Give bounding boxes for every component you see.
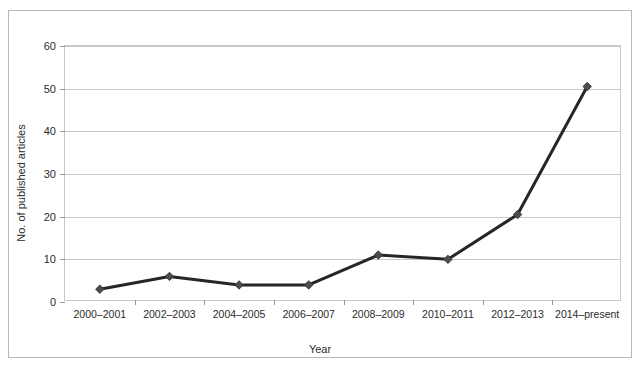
x-tick-label: 2010–2011 bbox=[422, 309, 474, 320]
x-tick-label: 2006–2007 bbox=[282, 309, 335, 320]
y-tick-label: 10 bbox=[44, 254, 56, 265]
x-tick-label: 2000–2001 bbox=[74, 309, 127, 320]
x-tick-label: 2002–2003 bbox=[143, 309, 196, 320]
y-tick-label: 40 bbox=[44, 126, 56, 137]
x-tick-label: 2014–present bbox=[555, 309, 619, 320]
y-axis-title: No. of published articles bbox=[15, 124, 27, 241]
y-tick-label: 60 bbox=[44, 41, 56, 52]
series-line-chart bbox=[65, 46, 622, 302]
plot-area: 0102030405060 2000–20012002–20032004–200… bbox=[64, 45, 621, 301]
x-tick-label: 2012–2013 bbox=[491, 309, 544, 320]
x-tick-label: 2004–2005 bbox=[213, 309, 266, 320]
series-line bbox=[100, 87, 587, 290]
x-axis-title: Year bbox=[9, 343, 631, 355]
y-tick bbox=[60, 302, 65, 303]
y-tick-label: 30 bbox=[44, 169, 56, 180]
data-point-marker bbox=[96, 285, 104, 293]
data-point-marker bbox=[165, 272, 173, 280]
y-tick-label: 20 bbox=[44, 211, 56, 222]
y-tick-label: 0 bbox=[50, 297, 56, 308]
data-point-marker bbox=[374, 251, 382, 259]
data-point-marker bbox=[235, 281, 243, 289]
y-tick-label: 50 bbox=[44, 83, 56, 94]
figure-frame: No. of published articles Year 010203040… bbox=[8, 10, 632, 358]
x-tick-label: 2008–2009 bbox=[352, 309, 405, 320]
data-point-marker bbox=[304, 281, 312, 289]
